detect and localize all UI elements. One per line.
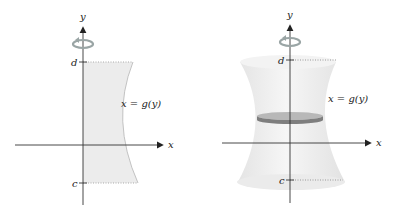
x-axis-label: x bbox=[376, 137, 382, 148]
y-axis-label: y bbox=[79, 11, 86, 22]
lower-bound-label: c bbox=[279, 175, 285, 186]
lower-bound-label: c bbox=[72, 178, 78, 189]
upper-bound-label: d bbox=[278, 55, 284, 66]
solid-bottom-face bbox=[237, 174, 345, 190]
upper-bound-label: d bbox=[71, 57, 77, 68]
curve-label: x = g(y) bbox=[121, 98, 161, 109]
solid-top-face bbox=[240, 55, 336, 69]
shaded-region bbox=[83, 62, 138, 183]
curve-label: x = g(y) bbox=[328, 93, 368, 104]
x-axis-label: x bbox=[168, 139, 174, 150]
y-axis-label: y bbox=[286, 9, 293, 20]
right-panel: y x d c x = g(y) bbox=[222, 9, 382, 203]
left-panel: y x d c x = g(y) bbox=[15, 11, 174, 205]
diagram-svg: y x d c x = g(y) y x d c x = g bbox=[0, 0, 393, 215]
solid-of-revolution-diagram: y x d c x = g(y) y x d c x = g bbox=[0, 0, 393, 215]
